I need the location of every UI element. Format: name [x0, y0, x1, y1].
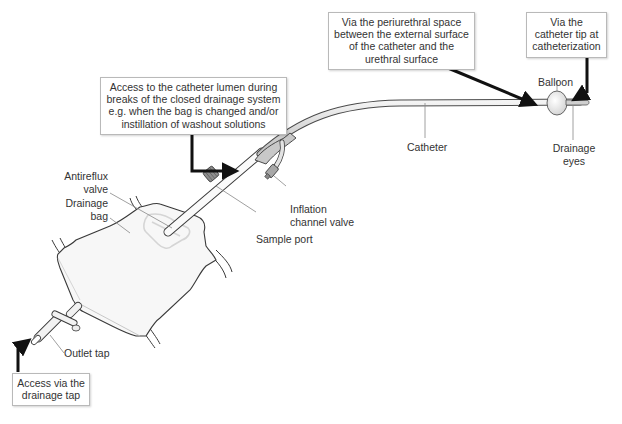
- label-text: Balloon: [538, 76, 573, 88]
- arrow-tip: [575, 58, 587, 99]
- callout-text: catheter tip at: [531, 28, 602, 40]
- arrow-tap: [18, 341, 28, 372]
- label-text: eyes: [546, 155, 602, 168]
- catheter-diagram: Access to the catheter lumen during brea…: [0, 0, 622, 424]
- label-catheter: Catheter: [407, 141, 447, 154]
- callout-text: e.g. when the bag is changed and/or: [105, 105, 282, 117]
- arrow-lumen: [192, 134, 235, 171]
- callout-text: Via the: [531, 16, 602, 28]
- label-text: Outlet tap: [64, 347, 110, 359]
- arrow-periurethral: [448, 68, 534, 104]
- label-outlet-tap: Outlet tap: [64, 347, 110, 360]
- callout-text: Via the periurethral space: [333, 16, 470, 28]
- drainage-bag-shape: [57, 203, 216, 336]
- label-sample-port: Sample port: [256, 233, 313, 246]
- callout-text: instillation of washout solutions: [105, 118, 282, 130]
- label-balloon: Balloon: [538, 76, 573, 89]
- label-drainage-eyes: Drainage eyes: [546, 142, 602, 167]
- label-drainage-bag: Drainage bag: [58, 197, 108, 222]
- callout-text: breaks of the closed drainage system: [105, 93, 282, 105]
- label-text: channel valve: [290, 216, 354, 229]
- label-text: Inflation: [290, 203, 354, 216]
- callout-text: drainage tap: [17, 389, 85, 401]
- sample-port-shape: [203, 166, 220, 183]
- callout-text: Access to the catheter lumen during: [105, 81, 282, 93]
- label-text: Sample port: [256, 233, 313, 245]
- label-antireflux-valve: Antireflux valve: [58, 170, 108, 195]
- label-text: bag: [58, 210, 108, 223]
- label-text: Drainage: [546, 142, 602, 155]
- label-inflation-channel-valve: Inflation channel valve: [290, 203, 354, 228]
- outlet-tap-shape: [34, 306, 80, 342]
- balloon-shape: [547, 91, 567, 115]
- callout-text: between the external surface: [333, 28, 470, 40]
- callout-text: catheterization: [531, 40, 602, 52]
- label-text: valve: [58, 183, 108, 196]
- callout-text: of the catheter and the: [333, 40, 470, 52]
- callout-drainage-tap: Access via the drainage tap: [12, 373, 90, 406]
- callout-catheter-tip: Via the catheter tip at catheterization: [526, 12, 607, 58]
- callout-text: urethral surface: [333, 53, 470, 65]
- label-text: Drainage: [58, 197, 108, 210]
- label-text: Catheter: [407, 141, 447, 153]
- callout-lumen-access: Access to the catheter lumen during brea…: [100, 77, 287, 135]
- callout-periurethral: Via the periurethral space between the e…: [328, 12, 475, 70]
- label-text: Antireflux: [58, 170, 108, 183]
- callout-text: Access via the: [17, 377, 85, 389]
